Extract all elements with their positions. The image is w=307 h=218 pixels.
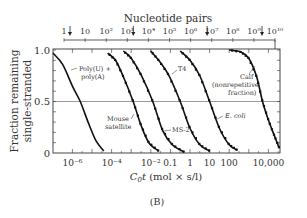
x-tick-label: 10: [204, 158, 216, 168]
top-tick-label: 10⁶: [184, 27, 197, 36]
top-axis: Nucleotide pairs 11010²10³10⁴10⁵10⁶10⁷10…: [61, 12, 283, 49]
x-tick-label: 10⁻²: [141, 158, 161, 168]
y-tick-label: 0.5: [34, 96, 50, 107]
top-tick-label: 10³: [121, 27, 134, 36]
label-calf-3: fraction): [228, 89, 257, 97]
label-polyua: Poly(U) +: [79, 65, 111, 73]
top-tick-label: 10²: [100, 27, 113, 36]
label-mouse: Mouse: [107, 115, 129, 123]
top-tick-label: 10: [80, 27, 90, 36]
top-tick-label: 10¹⁰: [267, 27, 284, 36]
label-ecoli: E. coli: [224, 112, 246, 120]
label-calf-2: (nonrepetitive: [212, 81, 259, 89]
figure-label: (B): [150, 196, 164, 207]
x-tick-label: 0.1: [163, 158, 177, 168]
top-tick-label: 10⁴: [142, 27, 155, 36]
label-mouse-2: satellite: [105, 123, 132, 131]
x-tick-label: 10⁻⁶: [62, 158, 82, 168]
y-tick-label: 0: [44, 148, 50, 159]
x-tick-label: 10,000: [253, 158, 285, 168]
label-polyua-2: poly(A): [81, 73, 105, 81]
y-axis-label-line2: single-stranded: [21, 59, 33, 142]
label-ms2: MS-2: [172, 126, 190, 134]
x-tick-label: 10⁻⁴: [102, 158, 122, 168]
top-tick-label: 10⁵: [163, 27, 176, 36]
top-tick-label: 10⁹: [247, 27, 261, 36]
x-axis-label: C0t (mol × s/l): [130, 171, 202, 184]
label-calf: Calf: [240, 73, 254, 81]
curve-5: [229, 50, 279, 148]
y-axis-label-line1: Fraction remaining: [8, 49, 20, 152]
label-t4: T4: [178, 65, 186, 73]
cot-curve-chart: Nucleotide pairs 11010²10³10⁴10⁵10⁶10⁷10…: [0, 0, 307, 218]
x-tick-label: 100: [221, 158, 238, 168]
top-tick-label: 1: [61, 27, 66, 36]
top-tick-label: 10⁸: [226, 27, 239, 36]
y-tick-label: 1.0: [34, 45, 50, 56]
x-tick-label: 1: [187, 158, 193, 168]
curve-1: [108, 53, 159, 151]
top-axis-title: Nucleotide pairs: [124, 12, 212, 24]
curve-labels: Poly(U) + poly(A) Mouse satellite MS-2 T…: [71, 65, 259, 134]
